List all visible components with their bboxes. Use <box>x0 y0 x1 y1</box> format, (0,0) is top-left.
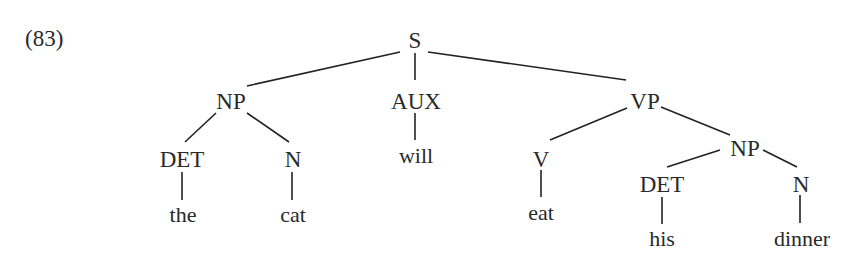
edge-vp-np <box>661 107 730 135</box>
tree-nodes: S NP AUX VP DET N V NP DET N <box>160 28 810 197</box>
node-v: V <box>533 147 550 172</box>
leaf-his: his <box>649 226 675 251</box>
node-vp: VP <box>630 89 659 114</box>
node-det-object: DET <box>640 172 685 197</box>
leaf-eat: eat <box>528 200 554 225</box>
node-aux: AUX <box>391 89 441 114</box>
leaf-dinner: dinner <box>774 226 831 251</box>
leaf-will: will <box>399 143 433 168</box>
tree-edges <box>182 52 800 224</box>
edge-np-det2 <box>667 150 720 167</box>
node-s: S <box>409 28 422 53</box>
edge-np-n2 <box>763 150 797 167</box>
edge-vp-v <box>550 108 627 140</box>
node-n-object: N <box>793 172 810 197</box>
edge-s-np <box>247 52 400 86</box>
edge-np-det <box>185 113 216 142</box>
edge-np-n <box>247 113 289 142</box>
node-n-subject: N <box>285 147 302 172</box>
edge-s-vp <box>428 52 626 80</box>
node-det-subject: DET <box>160 147 205 172</box>
node-np-subject: NP <box>216 89 245 114</box>
leaf-cat: cat <box>280 202 306 227</box>
leaf-the: the <box>170 202 197 227</box>
syntax-tree-diagram: (83) S NP AUX VP DET N V NP DET N the ca… <box>0 0 860 260</box>
node-np-object: NP <box>730 136 759 161</box>
example-number-label: (83) <box>25 26 63 51</box>
